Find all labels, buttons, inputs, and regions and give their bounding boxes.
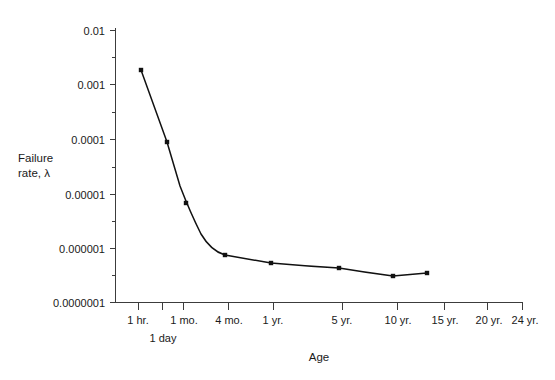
x-axis-ticks <box>139 302 523 310</box>
data-point <box>223 253 227 257</box>
x-tick-label: 1 mo. <box>170 314 198 326</box>
x-tick-label: 1 yr. <box>263 314 284 326</box>
data-point <box>425 271 429 275</box>
failure-rate-chart: 0.01 0.001 0.0001 0.00001 0.000001 0.000… <box>0 0 555 380</box>
x-tick-label: 24 yr. <box>512 314 539 326</box>
y-tick-label: 0.01 <box>84 25 105 37</box>
y-axis-tick-labels: 0.01 0.001 0.0001 0.00001 0.000001 0.000… <box>53 25 105 309</box>
y-tick-label: 0.000001 <box>59 243 105 255</box>
data-point <box>269 261 273 265</box>
chart-figure: 0.01 0.001 0.0001 0.00001 0.000001 0.000… <box>0 0 555 380</box>
data-point <box>391 274 395 278</box>
x-tick-label: 4 mo. <box>215 314 243 326</box>
failure-rate-curve <box>141 70 427 276</box>
x-axis-title: Age <box>309 351 329 363</box>
y-axis-title-line2: rate, λ <box>18 167 50 179</box>
y-tick-label: 0.001 <box>77 79 105 91</box>
data-point-markers <box>139 68 429 278</box>
x-tick-label-secondary: 1 day <box>150 332 177 344</box>
y-tick-label: 0.00001 <box>65 189 105 201</box>
y-axis-title: Failure rate, λ <box>18 152 53 179</box>
data-point <box>184 201 188 205</box>
x-tick-label: 20 yr. <box>476 314 503 326</box>
x-tick-label: 10 yr. <box>385 314 412 326</box>
y-tick-label: 0.0001 <box>71 134 105 146</box>
data-point <box>337 266 341 270</box>
data-point <box>165 140 169 144</box>
x-tick-label: 1 hr. <box>127 314 148 326</box>
y-tick-label: 0.0000001 <box>53 297 105 309</box>
data-point <box>139 68 143 72</box>
y-axis-title-line1: Failure <box>18 152 53 164</box>
x-axis-tick-labels: 1 hr. 1 mo. 4 mo. 1 yr. 5 yr. 10 yr. 15 … <box>127 314 538 326</box>
x-tick-label: 15 yr. <box>432 314 459 326</box>
x-tick-label: 5 yr. <box>332 314 353 326</box>
